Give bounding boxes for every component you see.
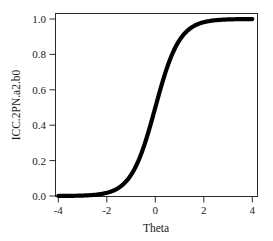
x-axis-title: Theta — [143, 222, 169, 234]
y-tick-label-2: 0.4 — [32, 119, 46, 131]
x-tick-label-0: -4 — [54, 204, 64, 216]
y-tick-label-0: 0.0 — [32, 190, 46, 202]
icc-curve — [58, 19, 252, 196]
icc-line-chart: -4 -2 0 2 4 0.0 0.2 0.4 0.6 0.8 1.0 Thet… — [0, 0, 273, 241]
x-tick-label-1: -2 — [102, 204, 111, 216]
y-tick-label-3: 0.6 — [32, 84, 46, 96]
x-tick-label-3: 2 — [201, 204, 207, 216]
y-axis-title: ICC.2PN.a2.b0 — [10, 69, 22, 140]
chart-figure: -4 -2 0 2 4 0.0 0.2 0.4 0.6 0.8 1.0 Thet… — [0, 0, 273, 241]
y-tick-label-1: 0.2 — [32, 155, 46, 167]
x-tick-label-2: 0 — [153, 204, 159, 216]
y-axis-ticks — [50, 19, 56, 196]
x-tick-label-4: 4 — [250, 204, 256, 216]
y-tick-label-4: 0.8 — [32, 48, 46, 60]
y-tick-label-5: 1.0 — [32, 13, 46, 25]
